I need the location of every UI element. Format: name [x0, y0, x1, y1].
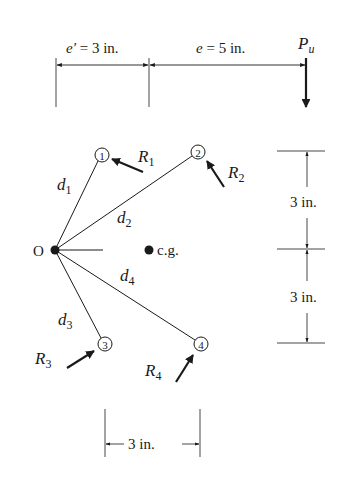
- d4-label: d4: [120, 266, 135, 288]
- r3-arrow: [67, 351, 94, 368]
- load-pu: Pu: [297, 34, 314, 107]
- d2-label: d2: [117, 208, 132, 230]
- r2-label: R2: [227, 163, 244, 185]
- lower-dimension-label: 3 in.: [290, 289, 317, 305]
- e-prime-label: e′ = 3 in.: [66, 40, 119, 56]
- d3-label: d3: [58, 310, 73, 332]
- top-dimension: e′ = 3 in. e = 5 in.: [56, 40, 305, 107]
- r4-arrow: [176, 355, 193, 382]
- bolt-number: 1: [99, 150, 105, 162]
- r3-label: R3: [34, 349, 51, 371]
- bolt-group-diagram: e′ = 3 in. e = 5 in. Pu O c.g. 1 2 3: [0, 0, 343, 482]
- d2-line: [55, 156, 192, 250]
- load-label: Pu: [297, 34, 314, 56]
- r2-arrow: [207, 161, 224, 187]
- bolt-number: 3: [102, 339, 108, 351]
- d1-label: d1: [57, 175, 72, 197]
- bolt-number: 2: [195, 147, 201, 159]
- bolt-1: 1: [95, 148, 109, 162]
- d4-line: [55, 250, 195, 340]
- bolt-2: 2: [191, 145, 205, 159]
- bottom-dimension-label: 3 in.: [128, 436, 155, 452]
- bolt-3: 3: [98, 337, 112, 351]
- right-dimension: [277, 151, 325, 343]
- bolt-number: 4: [198, 339, 204, 351]
- e-label: e = 5 in.: [196, 40, 245, 56]
- r4-label: R4: [144, 361, 161, 383]
- center-label: O: [33, 243, 44, 259]
- bolt-4: 4: [194, 337, 208, 351]
- r1-label: R1: [137, 147, 154, 169]
- upper-dimension-label: 3 in.: [290, 194, 317, 210]
- cg-label: c.g.: [157, 242, 179, 258]
- cg-dot: [145, 246, 154, 255]
- instantaneous-center-dot: [51, 246, 60, 255]
